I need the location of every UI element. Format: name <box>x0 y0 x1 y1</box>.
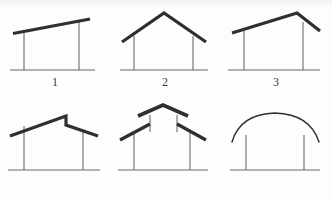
figure-grid: 1 2 3 <box>0 0 332 200</box>
roof-line-4 <box>10 116 98 136</box>
figure-cell-5: 5 <box>110 100 220 200</box>
arch-roof-6 <box>232 113 319 142</box>
figure-cell-4: 4 <box>0 100 110 200</box>
figure-cell-6: 6 <box>220 100 332 200</box>
roof-profiles-figure-sheet: 1 2 3 <box>0 0 332 200</box>
eave-right-5 <box>177 124 206 140</box>
roof-diagram-offset-ridge <box>0 100 110 200</box>
roof-diagram-monitor-clerestory <box>110 100 220 200</box>
roof-diagram-arched-barrel <box>220 100 332 200</box>
figure-caption-3: 3 <box>220 76 332 88</box>
figure-caption-1: 1 <box>0 76 110 88</box>
figure-cell-1: 1 <box>0 0 110 100</box>
roof-line-3 <box>232 13 320 33</box>
monitor-roof-5 <box>138 105 188 116</box>
figure-cell-2: 2 <box>110 0 220 100</box>
eave-left-5 <box>120 124 150 140</box>
figure-cell-3: 3 <box>220 0 332 100</box>
figure-caption-2: 2 <box>110 76 220 88</box>
